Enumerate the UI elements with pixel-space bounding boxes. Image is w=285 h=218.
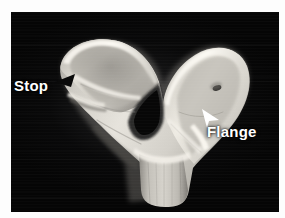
flange-label: Flange: [207, 124, 257, 139]
figure-root: Stop Flange: [0, 0, 285, 218]
stop-label: Stop: [14, 78, 48, 93]
stop-arrowhead-icon: [54, 72, 76, 90]
specimen-illustration: [11, 12, 279, 212]
photograph-plate: [11, 12, 279, 212]
